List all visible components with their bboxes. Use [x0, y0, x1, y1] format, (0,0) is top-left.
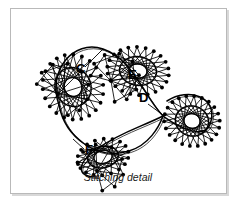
lower-lobe-node-dot — [93, 139, 97, 143]
figure-label-D: D — [139, 90, 148, 105]
upper-lobe-node-dot — [108, 58, 112, 62]
lower-fan-tip-dot — [109, 145, 113, 149]
left-lobe-node-dot — [43, 96, 47, 100]
left-lobe-node-dot — [87, 114, 91, 118]
left-fan-tip-dot — [86, 83, 90, 87]
upper-lobe-node-dot — [152, 49, 156, 53]
upper-fan-tip-dot — [125, 97, 129, 101]
figure-caption: Stitching detail — [84, 171, 153, 183]
left-lobe-node-dot — [80, 55, 84, 59]
left-lobe-node-dot — [99, 101, 103, 105]
upper-lobe-node-dot — [166, 67, 170, 71]
right-lobe-node-dot — [173, 138, 177, 142]
left-lobe-node-dot — [54, 111, 58, 115]
upper-fan-hub-dot — [109, 79, 113, 83]
upper-fan-tip-dot — [113, 100, 117, 104]
right-lobe-node-dot — [180, 142, 184, 146]
upper-lobe-node-dot — [126, 46, 130, 50]
upper-lobe-node-dot — [164, 60, 168, 64]
lower-lobe-node-dot — [124, 144, 128, 148]
figure-label-E: E — [128, 67, 137, 82]
upper-lobe-node-dot — [160, 86, 164, 90]
left-lobe-node-dot — [101, 92, 105, 96]
left-lobe-node-dot — [71, 118, 75, 122]
lower-lobe-node-dot — [76, 154, 80, 158]
lower-lobe-node-dot — [118, 140, 122, 144]
right-lobe-node-dot — [214, 132, 218, 136]
upper-fan-tip-dot — [134, 88, 138, 92]
upper-lobe-node-dot — [154, 90, 158, 94]
right-lobe-node-dot — [168, 133, 172, 137]
stitching-figure-panel: CEDF Stitching detail — [10, 8, 227, 194]
right-lobe-node-dot — [196, 144, 200, 148]
left-fan-tip-dot — [35, 82, 39, 86]
left-fan-tip-dot — [66, 113, 70, 117]
left-lobe-node-dot — [101, 83, 105, 87]
upper-lobe-node-dot — [135, 45, 139, 49]
upper-fan-tip-dot — [103, 53, 107, 57]
upper-fan-tip-dot — [89, 74, 93, 78]
caption-area: Stitching detail — [11, 159, 226, 193]
upper-lobe-node-dot — [119, 48, 123, 52]
left-lobe-node-dot — [94, 108, 98, 112]
right-lobe-node-dot — [164, 127, 168, 131]
right-lobe-node-dot — [210, 138, 214, 142]
upper-fan-tip-dot — [137, 73, 141, 77]
right-lobe-node-dot — [212, 105, 216, 109]
lower-lobe-node-dot — [102, 137, 106, 141]
leader-line-F — [73, 139, 84, 149]
right-lobe-node-dot — [166, 106, 170, 110]
lower-fan-tip-dot — [94, 143, 98, 147]
left-fan-tip-dot — [40, 71, 44, 75]
right-lobe-node-dot — [216, 112, 220, 116]
right-lobe-node-dot — [203, 142, 207, 146]
upper-lobe-node-dot — [159, 54, 163, 58]
right-lobe-node-dot — [188, 144, 192, 148]
left-lobe-node-dot — [99, 74, 103, 78]
upper-lobe-node-dot — [167, 73, 171, 77]
upper-lobe-node-dot — [144, 46, 148, 50]
figure-label-C: C — [76, 61, 86, 76]
upper-lobe-node-dot — [165, 80, 169, 84]
left-lobe-node-dot — [55, 56, 59, 60]
left-fan-tip-dot — [77, 108, 81, 112]
upper-fan-tip-dot — [92, 62, 96, 66]
left-lobe-node-dot — [48, 105, 52, 109]
figure-label-F: F — [85, 142, 93, 157]
left-fan-tip-dot — [51, 63, 55, 67]
upper-fan-tip-dot — [117, 52, 121, 56]
right-lobe-node-dot — [217, 126, 221, 130]
left-fan-tip-dot — [85, 97, 89, 101]
upper-fan-tip-dot — [131, 59, 135, 63]
left-lobe-node-dot — [79, 117, 83, 121]
right-lobe-node-dot — [218, 119, 222, 123]
left-lobe-node-dot — [63, 53, 67, 57]
